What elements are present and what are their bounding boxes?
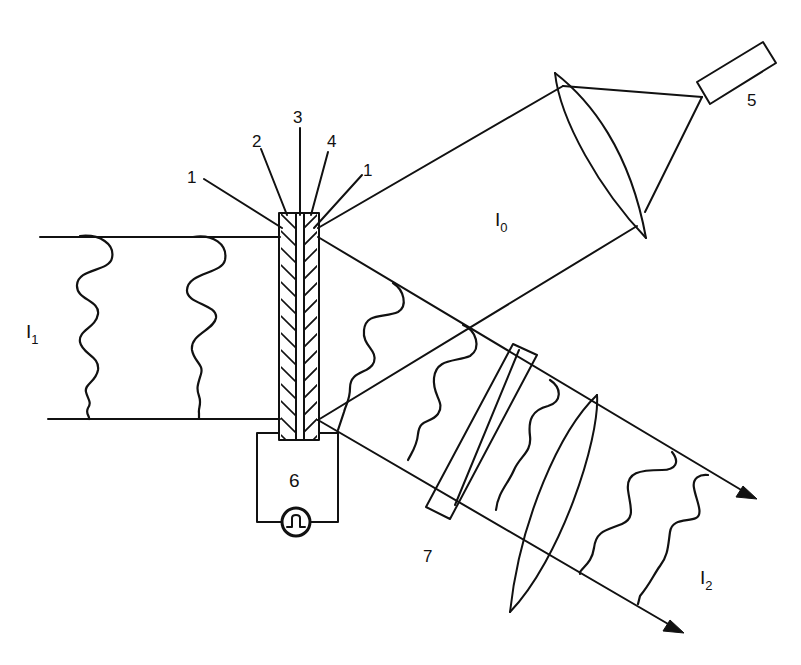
read-beam-upper-edge [318,86,563,228]
source-cone-lower [645,97,702,212]
output-beam-I2: 7 I2 [318,237,757,633]
beam-label-I0: I0 [495,209,508,235]
output-wave-1 [338,283,404,430]
source-cone-upper [563,86,702,97]
lens-2-left-arc [510,395,597,612]
optical-setup-diagram: I1 1 2 3 4 1 6 [0,0,801,665]
label-plate-7: 7 [423,547,432,566]
label-layer-4: 4 [327,132,336,151]
lens-1-right-arc [555,73,646,238]
optical-plate-7-inner [455,350,519,505]
input-wave-2 [187,236,225,419]
circuit-wire-left [257,433,282,522]
input-beam-I1: I1 [26,236,280,419]
beam-label-I1: I1 [26,321,39,347]
circuit-wire-right [310,433,338,522]
hatch-layer-4 [304,214,318,449]
lens-2-right-arc [510,395,597,612]
lens-1-left-arc [555,73,646,238]
label-circuit-6: 6 [289,470,300,491]
light-source-5 [697,42,776,104]
input-wave-1 [77,236,112,419]
beam-label-I2: I2 [700,567,713,593]
leader-1-right [314,175,362,228]
hatch-layer-2 [281,214,296,450]
pulse-generator-icon [282,508,310,536]
layered-cell: 1 2 3 4 1 [187,108,372,450]
read-beam-I0: 5 I0 [318,42,776,420]
label-source-5: 5 [747,91,756,110]
drive-circuit-6: 6 [257,433,338,536]
leader-1-left [204,179,282,228]
label-layer-1-right: 1 [363,161,372,180]
output-wave-3 [496,380,559,510]
output-beam-upper-edge [318,237,748,494]
output-wave-5 [638,475,708,604]
label-layer-1-left: 1 [187,168,196,187]
label-layer-2: 2 [252,132,261,151]
leader-2 [261,149,287,215]
leader-4 [311,152,328,215]
output-wave-4 [580,452,676,574]
label-layer-3: 3 [293,108,302,127]
